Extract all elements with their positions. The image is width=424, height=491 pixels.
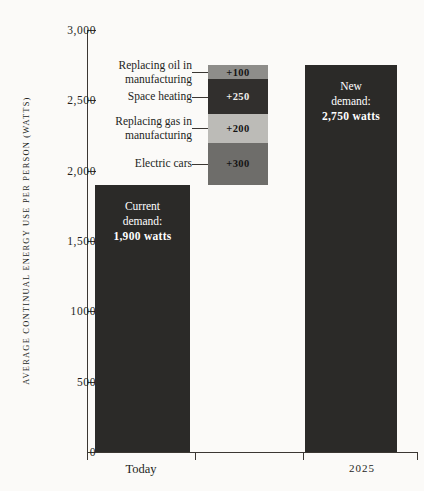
x-tick-left	[87, 452, 88, 460]
callout-label-1: Space heating	[42, 90, 192, 104]
bar-2025-label-value: 2,750 watts	[305, 109, 397, 124]
x-tick-mid-left	[195, 452, 196, 460]
callout-label-3: Electric cars	[42, 157, 192, 171]
callout-leader-2	[192, 128, 208, 129]
y-tick-label-1500: 1,500	[20, 235, 96, 247]
callout-label-line2-0: manufacturing	[42, 72, 192, 86]
bar-2025: New demand: 2,750 watts	[305, 65, 397, 452]
callout-label-line1-1: Space heating	[42, 90, 192, 104]
stack-segment-0: +100	[208, 65, 268, 79]
callout-label-2: Replacing gas inmanufacturing	[42, 115, 192, 142]
callout-label-line1-2: Replacing gas in	[42, 115, 192, 129]
stack-segment-value-3: +300	[226, 158, 249, 169]
bar-today: Current demand: 1,900 watts	[95, 185, 190, 452]
callout-label-0: Replacing oil inmanufacturing	[42, 59, 192, 86]
bar-2025-label-line2: demand:	[305, 94, 397, 109]
bar-today-label-line1: Current	[95, 199, 190, 214]
y-tick-label-500: 500	[20, 376, 96, 388]
stack-segment-1: +250	[208, 79, 268, 114]
bar-today-label-value: 1,900 watts	[95, 229, 190, 244]
x-axis-line	[87, 452, 418, 453]
y-tick-label-1000: 1000	[20, 305, 96, 317]
stack-segment-2: +200	[208, 114, 268, 142]
bar-today-label-line2: demand:	[95, 214, 190, 229]
x-tick-mid-right	[303, 452, 304, 460]
callout-leader-3	[192, 164, 208, 165]
stack-segment-value-2: +200	[226, 123, 249, 134]
stack-segment-value-0: +100	[226, 67, 249, 78]
bar-2025-label-line1: New	[305, 79, 397, 94]
callout-label-line1-3: Electric cars	[42, 157, 192, 171]
energy-demand-bar-chart: AVERAGE CONTINUAL ENERGY USE PER PERSON …	[0, 0, 424, 491]
x-tick-right	[417, 452, 418, 460]
callout-leader-0	[192, 72, 208, 73]
callout-leader-1	[192, 97, 208, 98]
bar-today-label: Current demand: 1,900 watts	[95, 199, 190, 244]
stack-segment-value-1: +250	[226, 91, 249, 102]
callout-label-line2-2: manufacturing	[42, 128, 192, 142]
y-tick-label-0: 0	[20, 446, 96, 458]
x-label-today: Today	[125, 462, 156, 477]
x-label-2025: 2025	[349, 462, 375, 474]
y-tick-label-3000: 3,000	[20, 24, 96, 36]
stack-segment-3: +300	[208, 143, 268, 185]
bar-2025-label: New demand: 2,750 watts	[305, 79, 397, 124]
callout-label-line1-0: Replacing oil in	[42, 59, 192, 73]
